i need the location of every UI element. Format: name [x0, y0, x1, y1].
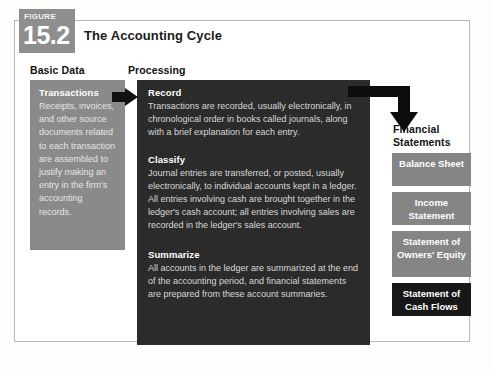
section-body: Transactions are recorded, usually elect…: [148, 100, 360, 140]
financial-statement-box-income-statement: Income Statement: [392, 192, 471, 225]
section-body: Journal entries are transferred, or post…: [148, 167, 360, 233]
processing-section-record: Record Transactions are recorded, usuall…: [148, 87, 360, 140]
section-heading: Record: [148, 87, 360, 98]
processing-section-summarize: Summarize All accounts in the ledger are…: [148, 249, 360, 302]
basic-data-body: Receipts, invoices, and other source doc…: [39, 100, 117, 219]
financial-statement-box-balance-sheet: Balance Sheet: [392, 153, 471, 186]
arrow-elbow-down-icon: [348, 86, 434, 132]
processing-section-classify: Classify Journal entries are transferred…: [148, 154, 360, 233]
arrow-right-icon: [112, 88, 138, 106]
figure-number-badge: FIGURE 15.2: [19, 9, 75, 53]
page-title: The Accounting Cycle: [84, 28, 222, 43]
column-heading-processing: Processing: [128, 64, 186, 76]
basic-data-panel: Transactions Receipts, invoices, and oth…: [30, 80, 125, 250]
basic-data-heading: Transactions: [39, 87, 117, 98]
section-heading: Summarize: [148, 249, 360, 260]
financial-statement-box-cash-flows: Statement of Cash Flows: [392, 283, 471, 316]
processing-panel: Record Transactions are recorded, usuall…: [137, 80, 370, 345]
column-heading-basic-data: Basic Data: [30, 64, 85, 76]
figure-container: FIGURE 15.2 The Accounting Cycle Basic D…: [0, 0, 492, 370]
figure-number: 15.2: [23, 20, 70, 50]
section-heading: Classify: [148, 154, 360, 165]
section-body: All accounts in the ledger are summarize…: [148, 262, 360, 302]
financial-statement-box-owners-equity: Statement of Owners' Equity: [392, 231, 471, 277]
